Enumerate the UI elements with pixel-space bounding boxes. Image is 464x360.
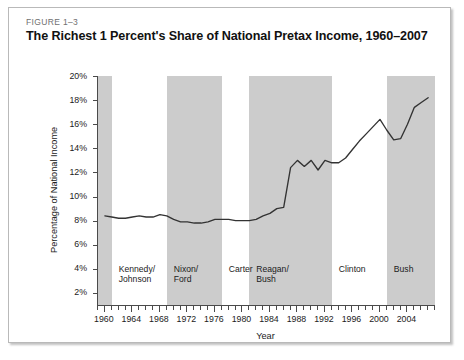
y-tick-label: 8% <box>55 215 87 225</box>
x-tick-mark-minor <box>372 306 373 310</box>
x-tick-mark-major <box>186 306 187 312</box>
x-tick-mark-minor <box>255 306 256 310</box>
x-tick-mark-minor <box>400 306 401 310</box>
x-tick-mark-minor <box>345 306 346 310</box>
x-tick-mark-major <box>324 306 325 312</box>
y-tick-label: 6% <box>55 239 87 249</box>
x-tick-mark-minor <box>290 306 291 310</box>
x-tick-label: 2004 <box>389 314 423 324</box>
x-tick-mark-minor <box>365 306 366 310</box>
x-tick-mark-major <box>351 306 352 312</box>
x-tick-mark-minor <box>331 306 332 310</box>
figure-title: The Richest 1 Percent's Share of Nationa… <box>26 29 428 43</box>
x-tick-mark-major <box>131 306 132 312</box>
x-tick-mark-major <box>296 306 297 312</box>
x-tick-mark-minor <box>111 306 112 310</box>
figure-number: FIGURE 1–3 <box>26 17 78 27</box>
x-tick-mark-minor <box>207 306 208 310</box>
x-tick-mark-minor <box>338 306 339 310</box>
y-tick-label: 18% <box>55 95 87 105</box>
x-tick-mark-minor <box>358 306 359 310</box>
x-tick-mark-major <box>269 306 270 312</box>
x-tick-mark-minor <box>200 306 201 310</box>
x-tick-mark-minor <box>228 306 229 310</box>
x-tick-mark-minor <box>310 306 311 310</box>
y-tick-label: 2% <box>55 287 87 297</box>
y-tick-label: 14% <box>55 143 87 153</box>
x-tick-mark-minor <box>97 306 98 310</box>
income-share-line <box>98 76 435 305</box>
x-tick-mark-minor <box>221 306 222 310</box>
x-tick-mark-minor <box>152 306 153 310</box>
figure-frame: FIGURE 1–3 The Richest 1 Percent's Share… <box>8 7 451 343</box>
y-tick-label: 20% <box>55 71 87 81</box>
plot-area: Kennedy/JohnsonNixon/FordCarterReagan/Bu… <box>97 76 435 306</box>
x-tick-mark-major <box>214 306 215 312</box>
x-tick-mark-minor <box>262 306 263 310</box>
x-axis-title: Year <box>57 331 464 341</box>
y-tick-label: 16% <box>55 119 87 129</box>
x-tick-mark-minor <box>413 306 414 310</box>
x-tick-mark-minor <box>393 306 394 310</box>
x-tick-mark-major <box>241 306 242 312</box>
y-tick-label: 12% <box>55 167 87 177</box>
x-tick-mark-minor <box>386 306 387 310</box>
x-tick-mark-major <box>159 306 160 312</box>
x-tick-mark-minor <box>276 306 277 310</box>
x-tick-mark-minor <box>173 306 174 310</box>
x-tick-mark-major <box>406 306 407 312</box>
x-tick-mark-major <box>104 306 105 312</box>
x-tick-mark-minor <box>235 306 236 310</box>
x-tick-mark-minor <box>180 306 181 310</box>
x-tick-mark-minor <box>427 306 428 310</box>
plot-inner: Kennedy/JohnsonNixon/FordCarterReagan/Bu… <box>98 76 435 305</box>
x-tick-mark-minor <box>420 306 421 310</box>
x-tick-mark-minor <box>303 306 304 310</box>
y-tick-label: 10% <box>55 191 87 201</box>
y-tick-label: 4% <box>55 263 87 273</box>
x-tick-mark-major <box>379 306 380 312</box>
x-tick-mark-minor <box>283 306 284 310</box>
x-tick-mark-minor <box>317 306 318 310</box>
x-tick-mark-minor <box>145 306 146 310</box>
x-tick-mark-minor <box>166 306 167 310</box>
x-tick-mark-minor <box>138 306 139 310</box>
series-polyline <box>105 98 428 223</box>
x-tick-mark-minor <box>248 306 249 310</box>
x-tick-mark-minor <box>125 306 126 310</box>
x-tick-mark-minor <box>118 306 119 310</box>
x-tick-mark-minor <box>193 306 194 310</box>
x-tick-mark-minor <box>434 306 435 310</box>
